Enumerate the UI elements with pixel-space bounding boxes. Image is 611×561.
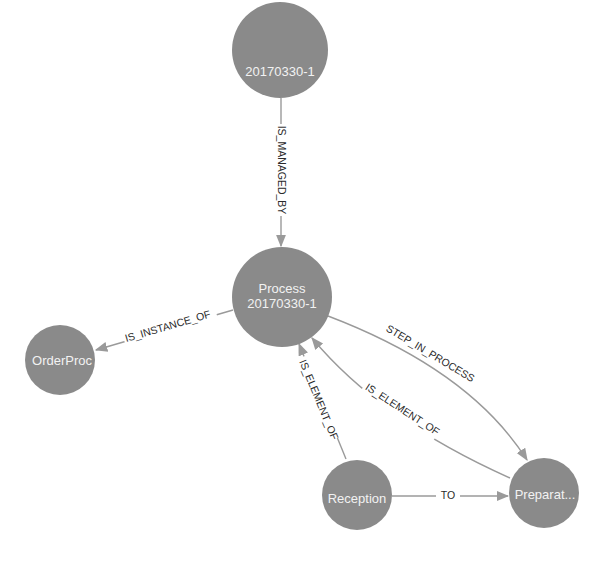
edge-label-to: TO: [441, 489, 455, 501]
node-label-process-line2: 20170330-1: [247, 296, 316, 311]
node-process-20170330-1[interactable]: Process 20170330-1: [232, 247, 332, 347]
node-preparat[interactable]: Preparat...: [509, 458, 579, 528]
node-label-process-line1: Process: [259, 281, 306, 296]
edge-is-element-of-reception[interactable]: IS_ELEMENT_OF: [292, 344, 346, 459]
edge-label-is-managed-by: IS_MANAGED_BY: [276, 126, 288, 215]
edge-label-step-in-process: STEP_IN_PROCESS: [384, 322, 477, 384]
edge-label-is-element-of-reception: IS_ELEMENT_OF: [297, 358, 341, 442]
node-label-preparat: Preparat...: [515, 487, 576, 502]
edge-step-in-process[interactable]: STEP_IN_PROCESS: [328, 316, 527, 460]
node-instance-20170330-1[interactable]: 20170330-1: [232, 2, 328, 98]
edge-to[interactable]: TO: [392, 488, 508, 503]
edge-is-instance-of[interactable]: IS_INSTANCE_OF: [96, 306, 233, 350]
node-reception[interactable]: Reception: [322, 460, 392, 530]
node-label-orderproc: OrderProc: [32, 353, 92, 368]
node-label-reception: Reception: [328, 491, 387, 506]
node-orderproc[interactable]: OrderProc: [25, 325, 95, 395]
nodes-layer: 20170330-1 Process 20170330-1 OrderProc …: [25, 2, 579, 530]
edge-is-managed-by[interactable]: IS_MANAGED_BY: [273, 98, 289, 246]
node-label-instance: 20170330-1: [245, 64, 314, 79]
graph-canvas[interactable]: IS_MANAGED_BY IS_INSTANCE_OF STEP_IN_PRO…: [0, 0, 611, 561]
edge-is-element-of-preparat[interactable]: IS_ELEMENT_OF: [312, 338, 510, 478]
edge-label-is-element-of-preparat: IS_ELEMENT_OF: [363, 381, 441, 438]
